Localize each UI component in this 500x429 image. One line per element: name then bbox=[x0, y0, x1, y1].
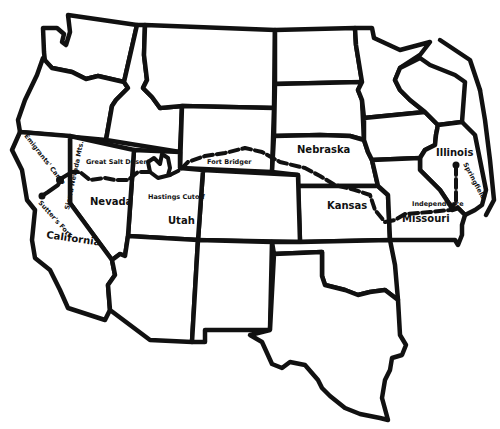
label-utah: Utah bbox=[168, 215, 195, 226]
label-great-salt-desert: Great Salt Desert bbox=[86, 158, 150, 166]
label-illinois: Illinois bbox=[436, 147, 473, 158]
label-kansas: Kansas bbox=[327, 200, 367, 211]
springfield-marker bbox=[453, 162, 460, 169]
label-hastings-cutoff: Hastings Cutoff bbox=[148, 193, 205, 201]
label-fort-bridger: Fort Bridger bbox=[207, 158, 252, 166]
state-montana bbox=[143, 25, 275, 108]
state-colorado bbox=[198, 170, 300, 242]
label-nevada: Nevada bbox=[90, 196, 132, 207]
state-new-mexico bbox=[192, 240, 272, 342]
label-nebraska: Nebraska bbox=[297, 144, 350, 155]
state-north-dakota bbox=[275, 28, 362, 84]
label-independence: Independence bbox=[412, 200, 464, 208]
map-canvas: Nebraska Kansas Illinois Missouri Nevada… bbox=[0, 0, 500, 429]
us-map: Nebraska Kansas Illinois Missouri Nevada… bbox=[0, 0, 500, 429]
label-missouri: Missouri bbox=[402, 213, 450, 224]
state-south-dakota bbox=[274, 82, 364, 140]
